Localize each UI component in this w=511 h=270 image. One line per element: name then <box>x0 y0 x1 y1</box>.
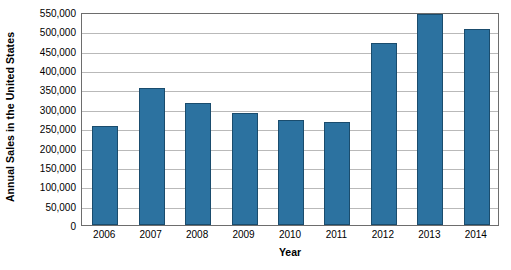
y-axis-tick-labels: 550,000500,000450,000400,000350,000300,0… <box>18 13 80 226</box>
y-axis-tick-label: 350,000 <box>40 85 76 96</box>
y-axis-tick-label: 450,000 <box>40 46 76 57</box>
bars-layer <box>82 14 498 225</box>
x-axis-tick-label: 2006 <box>93 229 115 240</box>
bar-2014 <box>464 29 490 225</box>
y-axis-tick-label: 0 <box>70 221 76 232</box>
bar-2013 <box>417 14 443 225</box>
bar-2007 <box>139 88 165 225</box>
x-axis-tick-label: 2013 <box>418 229 440 240</box>
y-axis-title: Annual Sales in the United States <box>0 0 20 234</box>
y-axis-tick-label: 150,000 <box>40 162 76 173</box>
x-axis-tick-label: 2012 <box>372 229 394 240</box>
y-axis-tick-label: 100,000 <box>40 182 76 193</box>
bar-2011 <box>324 122 350 225</box>
y-axis-tick-label: 550,000 <box>40 8 76 19</box>
bar-2006 <box>92 126 118 225</box>
y-axis-title-label: Annual Sales in the United States <box>4 32 16 202</box>
x-axis-tick-label: 2007 <box>140 229 162 240</box>
x-axis-tick-label: 2010 <box>279 229 301 240</box>
y-axis-tick-label: 500,000 <box>40 27 76 38</box>
bar-chart-figure: Annual Sales in the United States 550,00… <box>0 0 511 270</box>
y-axis-tick-label: 300,000 <box>40 104 76 115</box>
bar-2008 <box>185 103 211 225</box>
bar-2009 <box>232 113 258 225</box>
bar-2012 <box>371 43 397 225</box>
plot-area <box>81 13 499 226</box>
x-axis-title: Year <box>81 246 499 258</box>
y-axis-tick-label: 200,000 <box>40 143 76 154</box>
x-axis-tick-label: 2011 <box>326 229 348 240</box>
y-axis-tick-label: 50,000 <box>45 201 76 212</box>
bar-2010 <box>278 120 304 225</box>
y-axis-tick-label: 250,000 <box>40 124 76 135</box>
x-axis-tick-label: 2008 <box>186 229 208 240</box>
x-axis-tick-label: 2014 <box>465 229 487 240</box>
x-axis-tick-label: 2009 <box>232 229 254 240</box>
y-axis-tick-label: 400,000 <box>40 66 76 77</box>
x-axis-tick-labels: 200620072008200920102011201220132014 <box>81 229 499 245</box>
